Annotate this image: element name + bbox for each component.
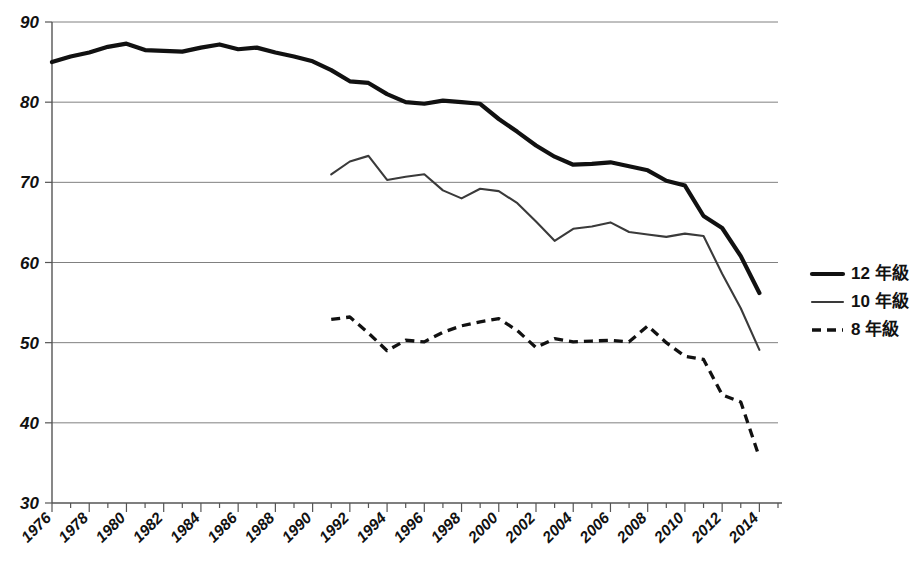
y-tick-label: 30 <box>20 494 39 513</box>
y-tick-label: 70 <box>20 173 39 192</box>
y-tick-label: 80 <box>20 93 39 112</box>
chart-container: 30405060708090 1976197819801982198419861… <box>0 0 914 570</box>
legend-label-0[interactable]: 12 年級 <box>851 263 909 283</box>
y-tick-label: 60 <box>20 254 39 273</box>
line-chart: 30405060708090 1976197819801982198419861… <box>0 0 914 570</box>
y-tick-label: 40 <box>19 414 39 433</box>
legend-label-1[interactable]: 10 年級 <box>851 291 909 311</box>
chart-background <box>0 0 914 570</box>
legend-label-2[interactable]: 8 年級 <box>851 319 899 339</box>
y-tick-label: 90 <box>20 13 39 32</box>
y-tick-label: 50 <box>20 334 39 353</box>
